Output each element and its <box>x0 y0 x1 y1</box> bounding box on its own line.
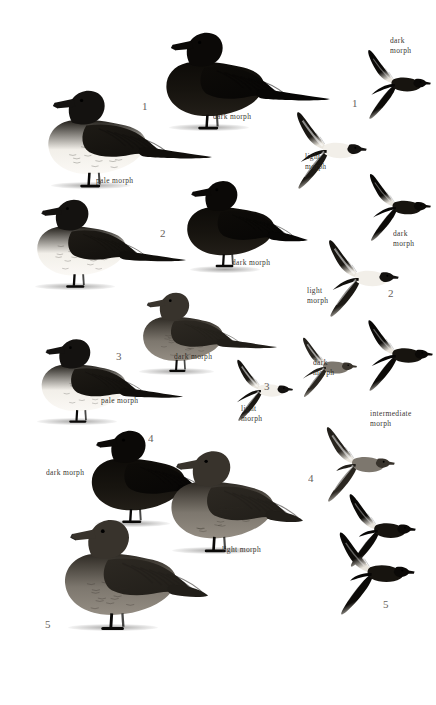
num-4-standing: 4 <box>148 432 154 444</box>
label-light-morph-flight-2: light morph <box>307 286 328 305</box>
flying-bird-light-morph-1 <box>288 110 368 190</box>
label-light-morph-4: light morph <box>222 545 261 555</box>
num-3-standing: 3 <box>116 350 122 362</box>
num-4-flight: 4 <box>308 472 314 484</box>
label-dark-morph-1: dark morph <box>213 112 251 122</box>
flying-bird-dark-morph-1 <box>360 46 432 122</box>
num-1-standing: 1 <box>142 100 148 112</box>
label-pale-morph-1: pale morph <box>96 176 133 186</box>
flying-bird-light-morph-2 <box>318 238 402 318</box>
standing-bird-pale-morph-jaeger-3 <box>8 330 168 425</box>
label-dark-morph-2: dark morph <box>232 258 270 268</box>
num-3-flight: 3 <box>264 380 270 392</box>
standing-bird-dark-morph-jaeger-1b <box>6 190 166 290</box>
flying-bird-great-skua-5 <box>330 530 416 616</box>
num-5-flight: 5 <box>383 598 389 610</box>
label-dark-morph-flight-2: dark morph <box>393 229 414 248</box>
label-light-morph-flight-3: light morph <box>241 404 262 423</box>
num-1-flight: 1 <box>352 97 358 109</box>
label-dark-morph-flight-1: dark morph <box>390 36 411 55</box>
label-light-morph-flight-1: light morph <box>305 152 326 171</box>
standing-bird-great-skua-5 <box>36 508 216 633</box>
flying-bird-dark-morph-2 <box>360 318 434 392</box>
label-dark-morph-flight-3: dark morph <box>313 358 334 377</box>
label-dark-morph-3: dark morph <box>174 352 212 362</box>
bird-identification-plate: pale morphdark morphdark morphdark morph… <box>0 0 436 705</box>
label-pale-morph-3: pale morph <box>101 396 138 406</box>
num-2-flight: 2 <box>388 287 394 299</box>
label-intermediate-morph-flight-4: intermediate morph <box>370 409 412 428</box>
num-5-standing: 5 <box>45 618 51 630</box>
label-dark-morph-4: dark morph <box>46 468 84 478</box>
num-2-standing: 2 <box>160 227 166 239</box>
